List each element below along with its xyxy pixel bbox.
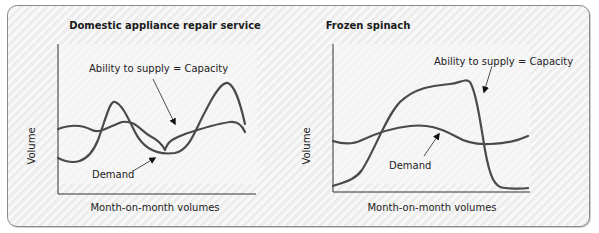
chart-domestic-appliance-repair: Domestic appliance repair service Volume… xyxy=(26,20,261,213)
chart-title-right: Frozen spinach xyxy=(326,20,411,31)
x-axis-label-left: Month-on-month volumes xyxy=(90,202,219,213)
chart-title-left: Domestic appliance repair service xyxy=(69,20,261,31)
y-axis-label-right: Volume xyxy=(301,127,312,164)
capacity-annotation-right: Ability to supply = Capacity xyxy=(434,56,573,67)
chart-frozen-spinach: Frozen spinach Volume Month-on-month vol… xyxy=(301,20,573,213)
y-axis-label-left: Volume xyxy=(26,127,37,164)
demand-annotation-right: Demand xyxy=(389,160,431,171)
x-axis-label-right: Month-on-month volumes xyxy=(367,202,496,213)
demand-annotation-left: Demand xyxy=(92,169,134,180)
figure-canvas: Domestic appliance repair service Volume… xyxy=(0,0,599,233)
capacity-annotation-left: Ability to supply = Capacity xyxy=(89,63,228,74)
